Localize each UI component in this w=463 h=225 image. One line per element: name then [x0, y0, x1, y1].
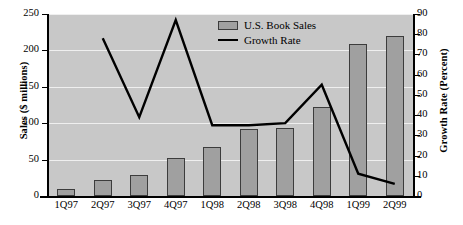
y-axis-right-tick-mark: [415, 34, 420, 35]
y-axis-right-tick-label: 10: [417, 169, 451, 180]
chart-legend: U.S. Book Sales Growth Rate: [215, 17, 319, 49]
y-axis-left-tick-mark: [42, 160, 47, 161]
chart-figure: Sales ($ millions) Growth Rate (Percent)…: [0, 0, 463, 225]
x-axis-tick-label: 3Q98: [267, 199, 304, 221]
legend-label: Growth Rate: [244, 34, 301, 46]
x-axis-tick-label: 1Q99: [340, 199, 377, 221]
y-axis-right-tick-label: 60: [417, 68, 451, 79]
x-axis-tick-label: 2Q99: [377, 199, 414, 221]
y-axis-left-tick-label: 0: [5, 189, 39, 200]
x-axis-tick-label: 1Q97: [48, 199, 85, 221]
axis-spine-bottom: [40, 196, 421, 198]
y-axis-right-tick-label: 70: [417, 47, 451, 58]
x-axis-ticks: 1Q972Q973Q974Q971Q982Q983Q984Q981Q992Q99: [48, 199, 413, 221]
y-axis-left-tick-mark: [42, 87, 47, 88]
legend-item-book-sales: U.S. Book Sales: [218, 18, 316, 32]
y-axis-right-tick-mark: [415, 156, 420, 157]
y-axis-left-tick-mark: [42, 50, 47, 51]
y-axis-left-tick-label: 150: [5, 80, 39, 91]
y-axis-right-tick-label: 20: [417, 149, 451, 160]
y-axis-right-tick-label: 90: [417, 7, 451, 18]
y-axis-right-tick-mark: [415, 75, 420, 76]
axis-spine-left: [47, 14, 49, 197]
axis-spine-right: [413, 14, 415, 197]
line-swatch-icon: [218, 39, 238, 41]
x-axis-tick-label: 4Q97: [158, 199, 195, 221]
x-axis-tick-label: 2Q97: [85, 199, 122, 221]
y-axis-left-tick-label: 200: [5, 43, 39, 54]
y-axis-right-tick-label: 50: [417, 88, 451, 99]
y-axis-right-ticks: 9080706050403020100: [417, 0, 451, 225]
y-axis-right-tick-mark: [415, 115, 420, 116]
bar-swatch-icon: [218, 21, 238, 30]
y-axis-right-tick-mark: [415, 54, 420, 55]
x-axis-tick-label: 2Q98: [231, 199, 268, 221]
legend-item-growth-rate: Growth Rate: [218, 33, 316, 47]
y-axis-right-tick-mark: [415, 176, 420, 177]
y-axis-left-tick-label: 250: [5, 7, 39, 18]
y-axis-left-tick-label: 50: [5, 153, 39, 164]
y-axis-right-tick-label: 0: [417, 189, 451, 200]
y-axis-left-ticks: 250200150100500: [5, 0, 39, 225]
y-axis-left-tick-mark: [42, 123, 47, 124]
y-axis-left-tick-mark: [42, 196, 47, 197]
y-axis-right-tick-mark: [415, 135, 420, 136]
y-axis-right-tick-mark: [415, 14, 420, 15]
y-axis-right-tick-mark: [415, 95, 420, 96]
x-axis-tick-label: 4Q98: [304, 199, 341, 221]
legend-label: U.S. Book Sales: [244, 19, 316, 31]
y-axis-left-tick-mark: [42, 14, 47, 15]
y-axis-left-tick-label: 100: [5, 116, 39, 127]
y-axis-right-tick-label: 80: [417, 27, 451, 38]
y-axis-right-tick-mark: [415, 196, 420, 197]
x-axis-tick-label: 1Q98: [194, 199, 231, 221]
y-axis-right-tick-label: 30: [417, 128, 451, 139]
x-axis-tick-label: 3Q97: [121, 199, 158, 221]
y-axis-right-tick-label: 40: [417, 108, 451, 119]
